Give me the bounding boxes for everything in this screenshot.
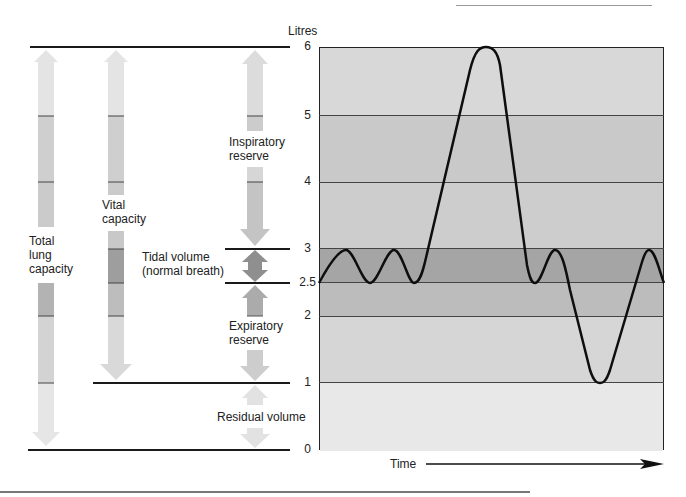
vital-capacity-label: Vital capacity — [102, 198, 146, 226]
tick-3: 3 — [281, 241, 311, 255]
spirogram-line — [319, 47, 664, 383]
tick-2-5: 2.5 — [286, 275, 316, 289]
residual-volume-label: Residual volume — [217, 410, 306, 424]
time-arrow — [426, 459, 664, 469]
inspiratory-reserve-label: Inspiratory reserve — [229, 135, 285, 163]
unit-label: Litres — [288, 24, 317, 38]
expiratory-reserve-label: Expiratory reserve — [229, 319, 283, 347]
tidal-volume-label: Tidal volume (normal breath) — [142, 250, 224, 278]
tick-0: 0 — [281, 442, 311, 456]
time-label: Time — [390, 457, 416, 471]
tick-4: 4 — [281, 174, 311, 188]
tick-2: 2 — [281, 308, 311, 322]
total-lung-capacity-label: Total lung capacity — [29, 234, 73, 276]
tick-1: 1 — [281, 375, 311, 389]
tick-5: 5 — [281, 108, 311, 122]
tidal-volume-arrow — [242, 250, 268, 282]
arrows-layer — [0, 0, 686, 497]
tick-6: 6 — [281, 39, 311, 53]
